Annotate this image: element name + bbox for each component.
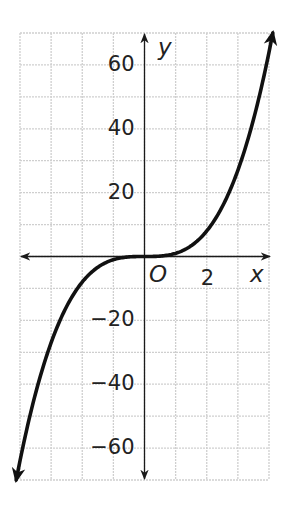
y-tick-label: −20 [90, 309, 134, 330]
origin-label: O [149, 263, 167, 286]
y-tick-label: 60 [108, 54, 135, 75]
cubic-function-graph [0, 0, 290, 519]
y-tick-label: 20 [108, 182, 135, 203]
y-tick-label: −60 [90, 437, 134, 458]
x-tick-label: 2 [201, 268, 214, 289]
y-axis-label: y [158, 36, 172, 59]
y-tick-label: 40 [108, 118, 135, 139]
y-tick-label: −40 [90, 373, 134, 394]
x-axis-label: x [250, 263, 264, 286]
